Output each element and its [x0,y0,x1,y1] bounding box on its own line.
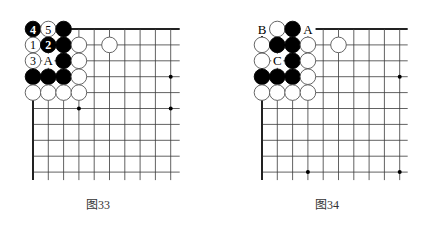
black-stone [285,53,301,69]
white-stone [300,53,316,69]
star-point [398,75,402,79]
figure-caption-34: 图34 [297,195,357,213]
white-stone [254,85,270,101]
white-stone [300,85,316,101]
white-stone [300,69,316,85]
point-label-c: C [273,53,282,68]
point-label-a: A [303,22,313,37]
point-label-b: B [258,22,267,37]
black-stone [270,69,286,85]
white-stone [254,53,270,69]
star-point [398,170,402,174]
white-stone [331,37,347,53]
white-stone [270,85,286,101]
go-board-34: BAC [0,0,428,228]
black-stone [285,37,301,53]
black-stone [254,69,270,85]
white-stone [270,21,286,37]
white-stone [254,37,270,53]
black-stone [285,69,301,85]
star-point [306,170,310,174]
white-stone [285,85,301,101]
white-stone [300,37,316,53]
figure-34: BAC 图34 [0,0,214,228]
black-stone [285,21,301,37]
black-stone [270,37,286,53]
